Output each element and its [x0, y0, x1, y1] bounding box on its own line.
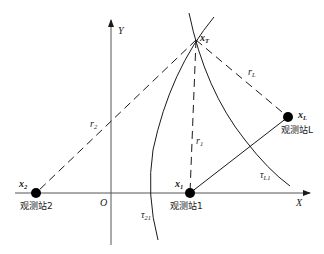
station-L-label: xL: [297, 109, 307, 121]
curve-label-tau-21: τ21: [141, 209, 151, 221]
range-line-rL: [196, 40, 288, 117]
station-L-name: 观测站L: [281, 124, 313, 135]
x-axis-label: X: [295, 197, 303, 208]
tdoa-diagram: Y X O xT r2 r1 rL τ21 τL1 x2 观测站2 x1 观测站…: [0, 0, 324, 254]
station-2-marker: [31, 188, 41, 198]
station-2-name: 观测站2: [20, 200, 53, 211]
station-1-label: x1: [174, 178, 183, 190]
curve-label-tau-L1: τL1: [260, 169, 270, 181]
y-axis-label: Y: [118, 25, 125, 36]
station-2-label: x2: [18, 178, 28, 190]
station-1-name: 观测站1: [170, 200, 203, 211]
baseline-1-L: [190, 117, 288, 193]
station-L-marker: [283, 112, 293, 122]
range-label-r2: r2: [90, 118, 98, 130]
range-label-rL: rL: [248, 66, 256, 78]
range-line-r1: [190, 40, 196, 193]
station-1-marker: [185, 188, 195, 198]
target-label: xT: [199, 32, 210, 44]
range-label-r1: r1: [196, 135, 203, 147]
origin-label: O: [100, 197, 107, 208]
range-line-r2: [36, 40, 196, 193]
